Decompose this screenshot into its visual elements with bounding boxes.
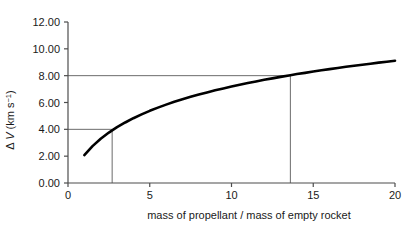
x-tick-label: 5 [147, 189, 153, 201]
y-tick-label: 8.00 [39, 70, 60, 82]
chart-background [0, 0, 418, 235]
x-axis-title: mass of propellant / mass of empty rocke… [147, 209, 351, 221]
x-tick-label: 0 [65, 189, 71, 201]
delta-v-chart: 0.002.004.006.008.0010.0012.00 05101520 … [0, 0, 418, 235]
y-tick-label: 0.00 [39, 177, 60, 189]
y-tick-label: 6.00 [39, 97, 60, 109]
x-tick-label: 10 [225, 189, 237, 201]
chart-screenshot: 0.002.004.006.008.0010.0012.00 05101520 … [0, 0, 418, 235]
y-tick-label: 4.00 [39, 123, 60, 135]
y-tick-label: 2.00 [39, 150, 60, 162]
x-tick-label: 20 [389, 189, 401, 201]
y-tick-label: 10.00 [32, 43, 60, 55]
x-tick-label: 15 [307, 189, 319, 201]
y-tick-label: 12.00 [32, 16, 60, 28]
